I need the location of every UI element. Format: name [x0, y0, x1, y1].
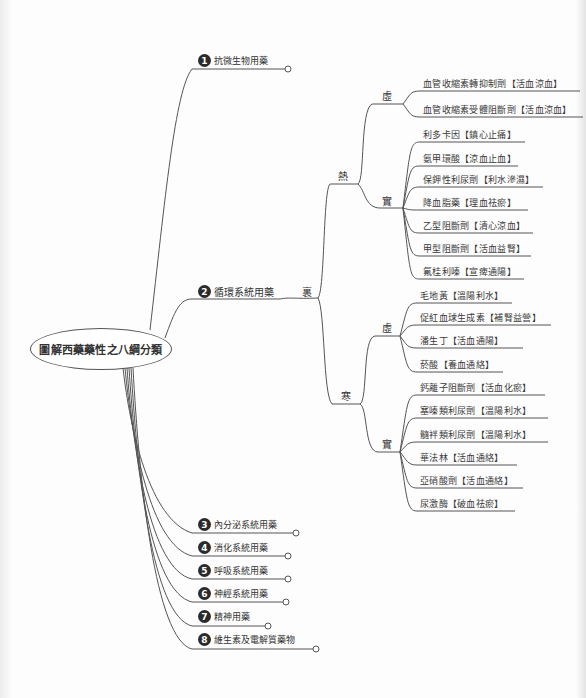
branch-hot: 熱: [338, 168, 348, 183]
drug-leaf: 甲型阻斷劑【活血益腎】: [423, 242, 525, 255]
drug-leaf: 保鉀性利尿劑【利水滲濕】: [423, 173, 535, 186]
category-antimicrobial: 1 抗微生物用藥: [198, 54, 268, 67]
number-badge-icon: 7: [198, 610, 211, 623]
category-psychiatric: 7 精神用藥: [198, 610, 250, 623]
drug-leaf: 塞嗪類利尿劑【溫陽利水】: [420, 404, 532, 417]
category-nervous: 6 神經系統用藥: [198, 587, 268, 600]
category-label: 精神用藥: [214, 610, 250, 623]
category-label: 神經系統用藥: [214, 587, 268, 600]
drug-leaf: 血管收縮素轉抑制劑【活血涼血】: [423, 77, 563, 90]
drug-leaf: 髓袢類利尿劑【溫陽利水】: [420, 428, 532, 441]
category-endocrine: 3 內分泌系統用藥: [198, 518, 277, 531]
drug-leaf: 氨甲環酸【涼血止血】: [423, 152, 516, 165]
category-respiratory: 5 呼吸系統用藥: [198, 564, 268, 577]
drug-leaf: 鈣離子阻斷劑【活血化瘀】: [420, 381, 532, 394]
drug-leaf: 毛地黃【溫陽利水】: [420, 289, 504, 302]
branch-cold-excess: 實: [382, 436, 392, 451]
category-label: 循環系統用藥: [214, 284, 274, 299]
drug-leaf: 降血脂藥【理血祛瘀】: [423, 196, 516, 209]
category-label: 內分泌系統用藥: [214, 518, 277, 531]
number-badge-icon: 8: [198, 633, 211, 646]
number-badge-icon: 2: [198, 285, 211, 298]
category-label: 呼吸系統用藥: [214, 564, 268, 577]
branch-cold-deficiency: 虛: [382, 320, 392, 335]
category-vitamins-electrolytes: 8 維生素及電解質藥物: [198, 633, 295, 646]
root-node: 圖解西藥藥性之八綱分類: [30, 328, 172, 370]
drug-leaf: 血管收縮素受體阻斷劑【活血涼血】: [423, 103, 572, 116]
number-badge-icon: 6: [198, 587, 211, 600]
drug-leaf: 促紅血球生成素【補腎益營】: [420, 311, 541, 324]
category-digestive: 4 消化系統用藥: [198, 541, 268, 554]
drug-leaf: 潘生丁【活血通陽】: [420, 334, 504, 347]
drug-leaf: 利多卡因【鎮心止痛】: [423, 128, 516, 141]
branch-interior: 裏: [302, 284, 312, 299]
drug-leaf: 華法林【活血通絡】: [420, 451, 504, 464]
number-badge-icon: 5: [198, 564, 211, 577]
drug-leaf: 尿激酶【破血祛瘀】: [420, 497, 504, 510]
drug-leaf: 氟桂利嗪【宣痺通陽】: [423, 265, 516, 278]
drug-leaf: 菸酸【養血通絡】: [420, 358, 494, 371]
branch-hot-deficiency: 虛: [382, 88, 392, 103]
number-badge-icon: 4: [198, 541, 211, 554]
number-badge-icon: 1: [198, 54, 211, 67]
drug-leaf: 乙型阻斷劑【清心涼血】: [423, 219, 525, 232]
category-label: 抗微生物用藥: [214, 54, 268, 67]
branch-hot-excess: 實: [382, 193, 392, 208]
drug-leaf: 亞硝酸劑【活血通絡】: [420, 474, 513, 487]
number-badge-icon: 3: [198, 518, 211, 531]
branch-cold: 寒: [341, 388, 351, 403]
category-label: 消化系統用藥: [214, 541, 268, 554]
category-label: 維生素及電解質藥物: [214, 633, 295, 646]
category-circulatory: 2 循環系統用藥: [198, 284, 274, 299]
